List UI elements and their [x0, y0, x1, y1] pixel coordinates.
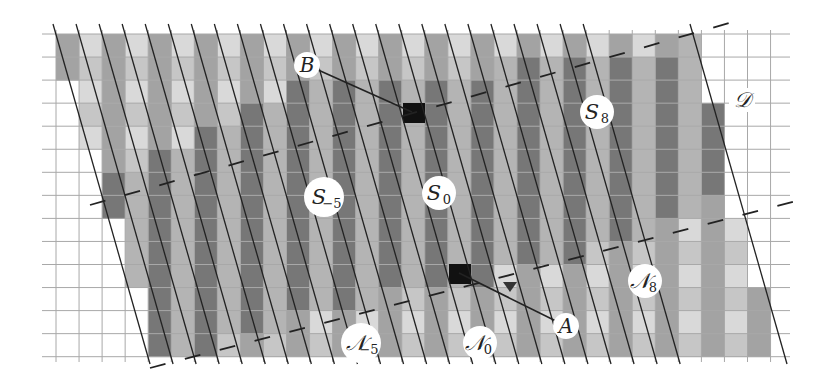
region-label-sub-N0: 0	[484, 342, 492, 357]
grid-cell	[448, 241, 471, 264]
grid-cell	[632, 172, 655, 195]
grid-cell	[632, 149, 655, 172]
grid-cell	[678, 241, 701, 264]
grid-cell	[171, 241, 194, 264]
region-label-sub-S0: 0	[443, 192, 451, 207]
lattice-diagram: S−5S0S8𝒩−5𝒩0𝒩8𝒟 BA	[0, 0, 817, 385]
grid-cell	[356, 241, 379, 264]
grid-cell	[102, 149, 125, 172]
grid-cell	[724, 334, 747, 357]
grid-cell	[678, 195, 701, 218]
grid-cell	[701, 149, 724, 172]
grid-cell	[333, 241, 356, 264]
grid-cell	[310, 149, 333, 172]
region-label-sub-S8: 8	[601, 111, 609, 126]
grid-cell	[678, 80, 701, 103]
grid-cell	[678, 103, 701, 126]
grid-cell	[586, 241, 609, 264]
grid-cell	[655, 172, 678, 195]
grid-cell	[310, 80, 333, 103]
grid-cell	[171, 311, 194, 334]
grid-cell	[494, 311, 517, 334]
grid-cell	[125, 80, 148, 103]
grid-cell	[748, 334, 771, 357]
grid-cell	[402, 149, 425, 172]
grid-cell	[609, 80, 632, 103]
grid-cell	[194, 241, 217, 264]
grid-cell	[678, 334, 701, 357]
grid-cell	[287, 149, 310, 172]
grid-cell	[563, 241, 586, 264]
grid-cell	[402, 311, 425, 334]
grid-cell	[471, 149, 494, 172]
grid-cell	[287, 241, 310, 264]
grid-cell	[240, 241, 263, 264]
grid-cell	[724, 218, 747, 241]
grid-cell	[217, 241, 240, 264]
grid-cell	[402, 241, 425, 264]
grid-cell	[655, 195, 678, 218]
grid-cell	[655, 80, 678, 103]
grid-cell	[609, 149, 632, 172]
grid-cell	[125, 149, 148, 172]
grid-cell	[263, 311, 286, 334]
grid-cell	[287, 80, 310, 103]
grid-cell	[263, 80, 286, 103]
grid-cell	[494, 241, 517, 264]
grid-cell	[333, 80, 356, 103]
grid-cell	[79, 80, 102, 103]
grid-cell	[148, 241, 171, 264]
grid-cell	[379, 241, 402, 264]
grid-cell	[194, 149, 217, 172]
grid-cell	[148, 311, 171, 334]
grid-cell	[724, 288, 747, 311]
grid-cell	[701, 172, 724, 195]
grid-cell	[678, 265, 701, 288]
grid-cell	[586, 311, 609, 334]
grid-cell	[678, 172, 701, 195]
grid-cell	[701, 311, 724, 334]
grid-cell	[678, 126, 701, 149]
grid-cell	[217, 80, 240, 103]
grid-cell	[540, 80, 563, 103]
grid-cell	[471, 80, 494, 103]
grid-cell	[586, 149, 609, 172]
grid-cell	[171, 80, 194, 103]
grid-cell	[240, 311, 263, 334]
grid-cell	[125, 241, 148, 264]
grid-cell	[701, 126, 724, 149]
grid-cell	[148, 80, 171, 103]
grid-cell	[240, 80, 263, 103]
grid-cell	[425, 149, 448, 172]
grid-cell	[425, 311, 448, 334]
grid-cell	[748, 311, 771, 334]
grid-cell	[402, 80, 425, 103]
grid-cell	[748, 288, 771, 311]
grid-cell	[678, 311, 701, 334]
grid-cell	[678, 288, 701, 311]
grid-cell	[102, 80, 125, 103]
grid-cell	[655, 57, 678, 80]
grid-cell	[425, 241, 448, 264]
region-label-sub-S-5: −5	[322, 196, 341, 211]
grid-cell	[655, 149, 678, 172]
grid-cell	[655, 218, 678, 241]
grid-cell	[240, 149, 263, 172]
grid-cell	[678, 57, 701, 80]
grid-cell	[701, 195, 724, 218]
grid-cell	[379, 311, 402, 334]
grid-cell	[379, 80, 402, 103]
grid-cell	[333, 149, 356, 172]
grid-cell	[517, 149, 540, 172]
grid-cell	[494, 149, 517, 172]
grid-cell	[609, 311, 632, 334]
grid-cell	[655, 126, 678, 149]
grid-cell	[632, 241, 655, 264]
grid-cell	[517, 241, 540, 264]
grid-cell	[448, 80, 471, 103]
grid-cell	[425, 80, 448, 103]
grid-cell	[217, 149, 240, 172]
grid-cell	[655, 241, 678, 264]
grid-cell	[609, 57, 632, 80]
grid-cell	[540, 149, 563, 172]
